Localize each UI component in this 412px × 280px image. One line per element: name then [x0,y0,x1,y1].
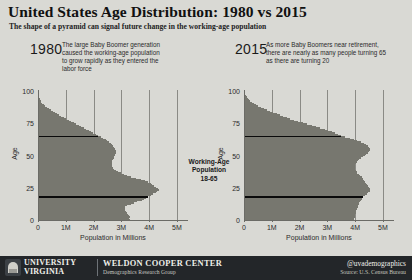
x-tick-label: 1M [61,224,71,231]
gridline [149,90,150,220]
age-marker-line-65 [38,136,98,137]
y-axis-label: Age [11,141,18,167]
y-tick-label: 100 [12,88,34,95]
x-axis-label: Population in Millions [38,234,188,241]
x-axis-label: Population in Millions [244,234,394,241]
y-tick-label: 75 [12,120,34,127]
y-tick-label: 0 [12,217,34,224]
x-tick-mark [355,220,356,222]
x-tick-label: 1M [267,224,277,231]
footer-bar: UNIVERSITYVIRGINIA WELDON COOPER CENTER … [0,256,412,280]
x-tick-mark [272,220,273,222]
x-tick-mark [149,220,150,222]
x-axis-line [244,220,394,221]
infographic-page: United States Age Distribution: 1980 vs … [0,0,412,280]
social-handle[interactable]: @uvademographics [347,259,406,268]
year-label-2015: 2015 [235,41,267,57]
y-tick-label: 25 [12,184,34,191]
age-marker-line-65 [244,136,341,137]
population-pyramid-2015: 025507510001M2M3M4M5MPopulation in Milli… [218,86,398,246]
y-tick-label: 75 [218,120,240,127]
university-name: UNIVERSITYVIRGINIA [24,259,76,276]
population-pyramid-1980: 025507510001M2M3M4M5MPopulation in Milli… [12,86,192,246]
data-source: Source: U.S. Census Bureau [340,269,406,275]
y-axis-line [38,90,39,220]
annotation-1980: The large Baby Boomer generation caused … [62,41,202,73]
x-tick-label: 3M [322,224,332,231]
weldon-cooper-center-subtitle: Demographics Research Group [103,269,176,275]
x-tick-label: 4M [144,224,154,231]
x-tick-label: 5M [172,224,182,231]
x-tick-label: 0 [242,224,246,231]
age-marker-line-18 [244,196,363,197]
y-tick-label: 0 [218,217,240,224]
age-marker-line-18 [38,196,148,197]
uva-rotunda-icon [5,259,21,276]
footer-divider [97,259,98,276]
x-tick-mark [383,220,384,222]
weldon-cooper-center-name: WELDON COOPER CENTER [103,259,222,268]
page-subtitle: The shape of a pyramid can signal future… [9,22,266,31]
x-tick-label: 2M [295,224,305,231]
x-tick-label: 0 [36,224,40,231]
annotation-2015: As more Baby Boomers near retirement, th… [266,41,412,65]
x-tick-mark [244,220,245,222]
x-tick-mark [300,220,301,222]
gridline [383,90,384,220]
x-tick-label: 5M [378,224,388,231]
x-tick-mark [94,220,95,222]
year-label-1980: 1980 [30,41,62,57]
x-tick-mark [38,220,39,222]
gridline [177,90,178,220]
y-axis-label: Age [217,141,224,167]
page-title: United States Age Distribution: 1980 vs … [8,3,307,21]
x-tick-label: 2M [89,224,99,231]
x-tick-mark [121,220,122,222]
x-tick-mark [66,220,67,222]
x-tick-mark [177,220,178,222]
x-axis-line [38,220,188,221]
y-tick-label: 25 [218,184,240,191]
x-tick-mark [327,220,328,222]
y-tick-label: 100 [218,88,240,95]
x-tick-label: 4M [350,224,360,231]
y-axis-line [244,90,245,220]
x-tick-label: 3M [116,224,126,231]
